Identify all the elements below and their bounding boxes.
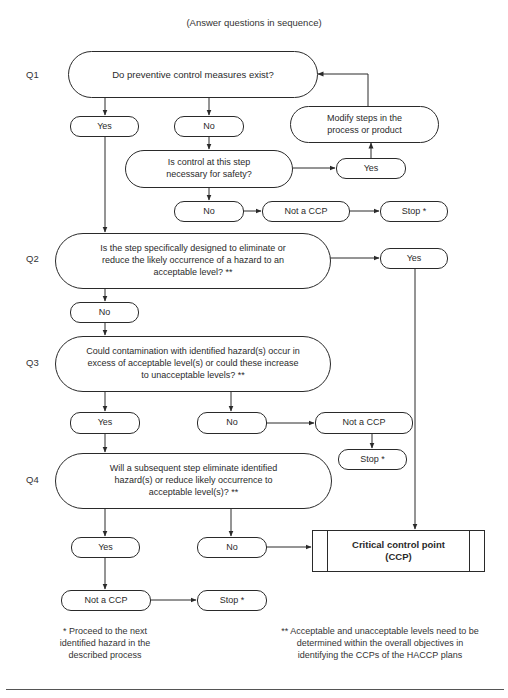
q3-label: Q3 (26, 357, 39, 368)
q1-question-text: Do preventive control measures exist? (112, 69, 274, 81)
q4-stop-text: Stop * (220, 595, 245, 607)
q2-no-text: No (99, 307, 111, 319)
q3-yes-text: Yes (98, 417, 113, 429)
modify-steps-text: Modify steps in the process or product (315, 113, 415, 137)
q1-label: Q1 (26, 69, 39, 80)
q1-no-text: No (203, 121, 215, 133)
control-no-text: No (203, 206, 215, 218)
q1-yes-node: Yes (70, 116, 139, 137)
q3-question-node: Could contamination with identified haza… (55, 336, 331, 392)
q2-yes-node: Yes (380, 248, 448, 269)
q4-no-node: No (197, 537, 267, 558)
q4-label: Q4 (26, 474, 39, 485)
ccp-right-bar (469, 531, 470, 571)
q2-no-node: No (70, 302, 139, 323)
instruction-header: (Answer questions in sequence) (0, 17, 508, 28)
q1-stop-text: Stop * (402, 206, 427, 218)
modify-steps-node: Modify steps in the process or product (290, 106, 439, 143)
ccp-node: Critical control point (CCP) (312, 530, 485, 572)
q3-not-ccp-node: Not a CCP (315, 412, 413, 434)
q2-yes-text: Yes (407, 253, 422, 265)
q3-not-ccp-text: Not a CCP (342, 417, 385, 429)
q3-yes-node: Yes (70, 412, 140, 434)
footnote-single-asterisk: * Proceed to the next identified hazard … (50, 625, 160, 661)
control-necessary-text: Is control at this step necessary for sa… (154, 157, 264, 181)
control-no-node: No (174, 201, 244, 222)
q1-question-node: Do preventive control measures exist? (68, 51, 318, 98)
control-necessary-node: Is control at this step necessary for sa… (125, 150, 293, 188)
q2-label: Q2 (26, 253, 39, 264)
q1-yes-text: Yes (97, 121, 112, 133)
ccp-left-bar (327, 531, 328, 571)
q3-no-node: No (197, 412, 267, 434)
q4-not-ccp-text: Not a CCP (84, 595, 127, 607)
q4-yes-node: Yes (71, 537, 140, 558)
q4-not-ccp-node: Not a CCP (61, 590, 151, 611)
q1-stop-node: Stop * (380, 201, 448, 222)
control-yes-text: Yes (364, 163, 379, 175)
q3-no-text: No (226, 417, 238, 429)
caption-divider (6, 689, 504, 690)
q1-no-node: No (174, 116, 244, 137)
footnote-double-asterisk: ** Acceptable and unacceptable levels ne… (280, 625, 480, 661)
q3-stop-node: Stop * (338, 449, 407, 470)
ccp-title: Critical control point (352, 539, 445, 551)
q4-no-text: No (226, 542, 238, 554)
q3-question-text: Could contamination with identified haza… (86, 346, 301, 381)
q3-stop-text: Stop * (360, 454, 385, 466)
q4-yes-text: Yes (98, 542, 113, 554)
q4-stop-node: Stop * (197, 590, 267, 611)
q2-question-text: Is the step specifically designed to eli… (88, 243, 298, 278)
q1-not-ccp-node: Not a CCP (262, 201, 350, 222)
q2-question-node: Is the step specifically designed to eli… (55, 233, 331, 289)
q4-question-node: Will a subsequent step eliminate identif… (55, 453, 332, 509)
control-yes-node: Yes (336, 158, 406, 179)
ccp-abbrev: (CCP) (352, 551, 445, 563)
q4-question-text: Will a subsequent step eliminate identif… (94, 463, 294, 498)
q1-not-ccp-text: Not a CCP (284, 206, 327, 218)
